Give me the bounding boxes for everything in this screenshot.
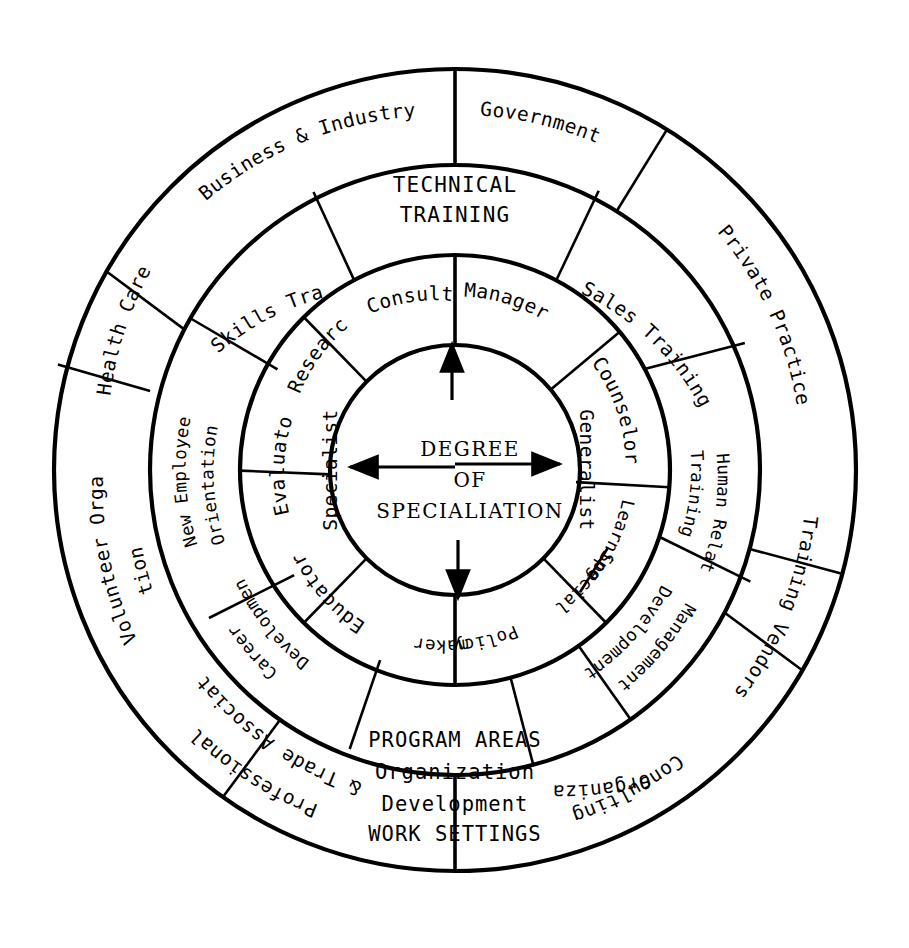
center-label-line1: DEGREE	[420, 437, 519, 461]
outer-segment-private-practice: Private Practice	[713, 220, 815, 407]
inner-segment-consultant: Consultant	[0, 0, 454, 318]
outer-ring-caption: WORK SETTINGS	[368, 822, 541, 846]
inner-segment-researcher: Researcher	[0, 0, 352, 396]
outer-segment-professional-trade-association-line2: & Trade Association	[0, 0, 364, 800]
middle-divider-165	[511, 678, 534, 766]
center-label-line2: OF	[453, 468, 486, 492]
middle-segment-new-employee-orientation-line2: Orientation	[197, 423, 229, 547]
middle-divider-332	[314, 192, 355, 282]
middle-segment-organization-development-line2: Development	[382, 792, 529, 816]
center-group: DEGREE OF SPECIALIATION Specialist Gener…	[319, 344, 598, 598]
outer-segment-training-vendors: Training Vendors	[729, 515, 822, 705]
center-label-line3: SPECIALIATION	[376, 499, 563, 523]
middle-ring-caption: PROGRAM AREAS	[368, 728, 541, 752]
axis-label-generalist: Generalist	[575, 409, 598, 530]
inner-segment-manager: Manager	[463, 279, 553, 325]
outer-segment-government: Government	[479, 97, 604, 148]
middle-segment-organization-development-line1: Organization	[375, 760, 535, 784]
middle-segment-sales-training: Sales Training	[578, 277, 717, 411]
axis-label-specialist: Specialist	[319, 409, 342, 530]
wheel-svg: Government Private Practice Training Ven…	[0, 0, 909, 948]
outer-segment-volunteer-organization-line2: tion	[124, 545, 158, 598]
middle-segment-new-employee-orientation-line1: New Employee	[170, 414, 202, 549]
outer-divider-58	[617, 129, 668, 211]
middle-segment-skills-training: Skills Training	[0, 0, 326, 358]
middle-segment-human-relations-training-line1: Human Relations	[0, 0, 734, 576]
middle-segment-technical-training-line2: TRAINING	[400, 203, 511, 227]
inner-segment-policy-maker-line2: maker	[412, 634, 470, 657]
middle-divider-n28	[556, 191, 598, 280]
specialization-wheel-diagram: Government Private Practice Training Ven…	[0, 0, 909, 948]
middle-segment-technical-training-line1: TECHNICAL	[393, 173, 518, 197]
inner-segment-educator: Educator	[286, 549, 368, 638]
outer-segment-business-industry: Business & Industry	[194, 99, 416, 206]
inner-segment-evaluator: Evaluator	[0, 0, 298, 518]
middle-segment-human-relations-training-line2: Training	[677, 450, 708, 540]
